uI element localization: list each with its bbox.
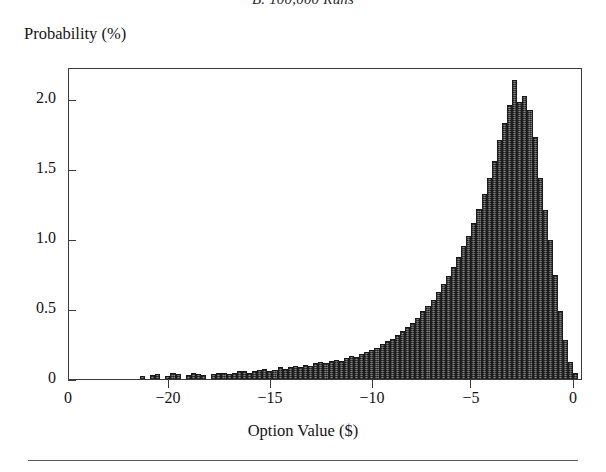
histogram-bar — [176, 374, 181, 379]
y-tick-1-5 — [68, 170, 76, 171]
x-tick-minus15 — [270, 380, 271, 388]
x-label-minus15: −15 — [240, 389, 300, 407]
y-label-0: 0 — [2, 369, 56, 387]
panel-title: B. 100,000 Runs — [0, 0, 606, 8]
x-tick-minus20 — [168, 380, 169, 388]
x-label-left-0: 0 — [38, 389, 98, 407]
x-tick-zero — [573, 380, 574, 388]
y-label-0-5: 0.5 — [2, 299, 56, 317]
histogram-bars — [69, 69, 581, 379]
x-tick-minus10 — [372, 380, 373, 388]
x-label-zero: 0 — [543, 389, 603, 407]
x-tick-minus5 — [470, 380, 471, 388]
histogram-bar — [140, 376, 145, 379]
figure-panel: B. 100,000 Runs Probability (%) 0 0.5 1.… — [0, 0, 606, 472]
histogram-bar — [155, 374, 160, 379]
y-axis-caption: Probability (%) — [24, 24, 126, 44]
y-tick-0-5 — [68, 310, 76, 311]
y-label-1-5: 1.5 — [2, 159, 56, 177]
x-label-minus20: −20 — [138, 389, 198, 407]
y-tick-0 — [68, 380, 76, 381]
histogram-bar — [573, 373, 578, 380]
x-axis-caption: Option Value ($) — [0, 421, 606, 441]
y-tick-1-0 — [68, 240, 76, 241]
x-label-minus5: −5 — [441, 389, 501, 407]
y-tick-2-0 — [68, 100, 76, 101]
x-label-minus10: −10 — [342, 389, 402, 407]
bottom-divider — [28, 460, 578, 461]
plot-frame — [68, 68, 582, 380]
histogram-bar — [201, 375, 206, 379]
y-label-2-0: 2.0 — [2, 89, 56, 107]
y-label-1-0: 1.0 — [2, 229, 56, 247]
